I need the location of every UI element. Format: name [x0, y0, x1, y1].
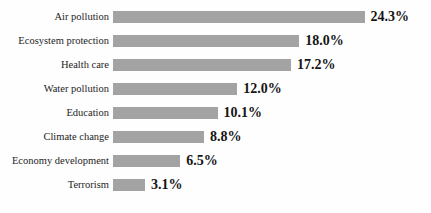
bar-rect: [113, 107, 218, 119]
bar-rect: [113, 131, 204, 143]
bar-category-label: Economy development: [0, 156, 113, 167]
bar-value-label: 18.0%: [305, 34, 344, 48]
bar-row: Terrorism3.1%: [0, 173, 431, 197]
chart-title: [0, 0, 431, 2]
chart-plot-area: Air pollution24.3%Ecosystem protection18…: [0, 5, 431, 205]
bar-track: 12.0%: [113, 77, 431, 101]
bar-row: Economy development6.5%: [0, 149, 431, 173]
bar-rect: [113, 59, 291, 71]
bar-track: 18.0%: [113, 29, 431, 53]
bar-value-label: 6.5%: [186, 154, 218, 168]
bar-category-label: Education: [0, 108, 113, 119]
bar-category-label: Terrorism: [0, 180, 113, 191]
bar-row: Ecosystem protection18.0%: [0, 29, 431, 53]
bar-category-label: Health care: [0, 60, 113, 71]
bar-value-label: 3.1%: [151, 178, 183, 192]
bar-track: 3.1%: [113, 173, 431, 197]
bar-value-label: 17.2%: [297, 58, 336, 72]
bar-row: Water pollution12.0%: [0, 77, 431, 101]
bar-row: Climate change8.8%: [0, 125, 431, 149]
bar-row: Health care17.2%: [0, 53, 431, 77]
bar-track: 6.5%: [113, 149, 431, 173]
bar-row: Air pollution24.3%: [0, 5, 431, 29]
bar-category-label: Climate change: [0, 132, 113, 143]
bar-value-label: 12.0%: [243, 82, 282, 96]
bar-track: 10.1%: [113, 101, 431, 125]
bar-value-label: 24.3%: [371, 10, 410, 24]
bar-value-label: 8.8%: [210, 130, 242, 144]
bar-rect: [113, 83, 237, 95]
bar-track: 17.2%: [113, 53, 431, 77]
bar-row: Education10.1%: [0, 101, 431, 125]
bar-chart-figure: Air pollution24.3%Ecosystem protection18…: [0, 0, 431, 213]
bar-rect: [113, 179, 145, 191]
bar-rect: [113, 11, 365, 23]
bar-category-label: Water pollution: [0, 84, 113, 95]
bar-category-label: Air pollution: [0, 12, 113, 23]
bar-track: 8.8%: [113, 125, 431, 149]
bar-track: 24.3%: [113, 5, 431, 29]
bar-rect: [113, 155, 180, 167]
bar-category-label: Ecosystem protection: [0, 36, 113, 47]
bar-rect: [113, 35, 299, 47]
bar-value-label: 10.1%: [224, 106, 263, 120]
